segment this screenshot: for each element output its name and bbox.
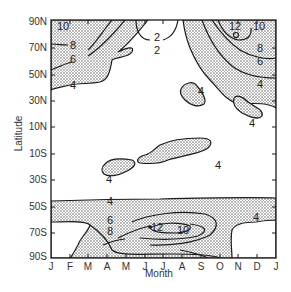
y-tick-90s: 90S <box>9 251 47 262</box>
contour-label-10-nw: 10 <box>57 21 69 32</box>
contour-label-8-s: 8 <box>107 226 113 237</box>
y-tick-30s: 30S <box>9 174 47 185</box>
contour-label-12-ne: 12 <box>229 21 241 32</box>
y-tick-90n: 90N <box>9 16 47 27</box>
contour-label-4-cell3: 4 <box>215 160 221 171</box>
x-tick-n: N <box>231 261 245 272</box>
contour-label-6-ne: 6 <box>257 56 263 67</box>
x-axis-label: Month <box>145 268 173 279</box>
contour-region-cell-3 <box>138 138 211 164</box>
contour-label-2-top: 2 <box>154 32 160 43</box>
contour-label-4-ne: 4 <box>257 79 263 90</box>
contour-label-12-s: 12 <box>151 222 163 233</box>
contour-label-4-cell1: 4 <box>198 86 204 97</box>
x-tick-m1: M <box>81 261 95 272</box>
contour-label-4-cell4: 4 <box>106 174 112 185</box>
x-tick-f: F <box>63 261 77 272</box>
x-tick-j1: J <box>44 261 58 272</box>
contour-label-10-ne: 10 <box>253 21 265 32</box>
x-tick-o: O <box>213 261 227 272</box>
y-axis-label: Latitude <box>13 112 24 156</box>
contour-label-4-cell2: 4 <box>249 118 255 129</box>
y-tick-70s: 70S <box>9 227 47 238</box>
x-tick-d: D <box>250 261 264 272</box>
contour-label-6-nw: 6 <box>70 54 76 65</box>
contour-label-4-se: 4 <box>253 212 259 223</box>
x-tick-s: S <box>194 261 208 272</box>
contour-hole-southeast <box>231 220 276 258</box>
y-tick-30n: 30N <box>9 95 47 106</box>
x-tick-j4: J <box>269 261 283 272</box>
x-tick-a2: A <box>175 261 189 272</box>
y-tick-50n: 50N <box>9 69 47 80</box>
y-tick-70n: 70N <box>9 42 47 53</box>
y-tick-50s: 50S <box>9 201 47 212</box>
contour-label-8-ne: 8 <box>257 43 263 54</box>
x-tick-a1: A <box>100 261 114 272</box>
contour-label-4-nw: 4 <box>70 80 76 91</box>
contour-label-4-s: 4 <box>107 196 113 207</box>
contour-label-8-nw: 8 <box>70 40 76 51</box>
contour-label-2-bottom: 2 <box>154 45 160 56</box>
contour-label-10-s: 10 <box>177 225 189 236</box>
x-tick-m2: M <box>119 261 133 272</box>
